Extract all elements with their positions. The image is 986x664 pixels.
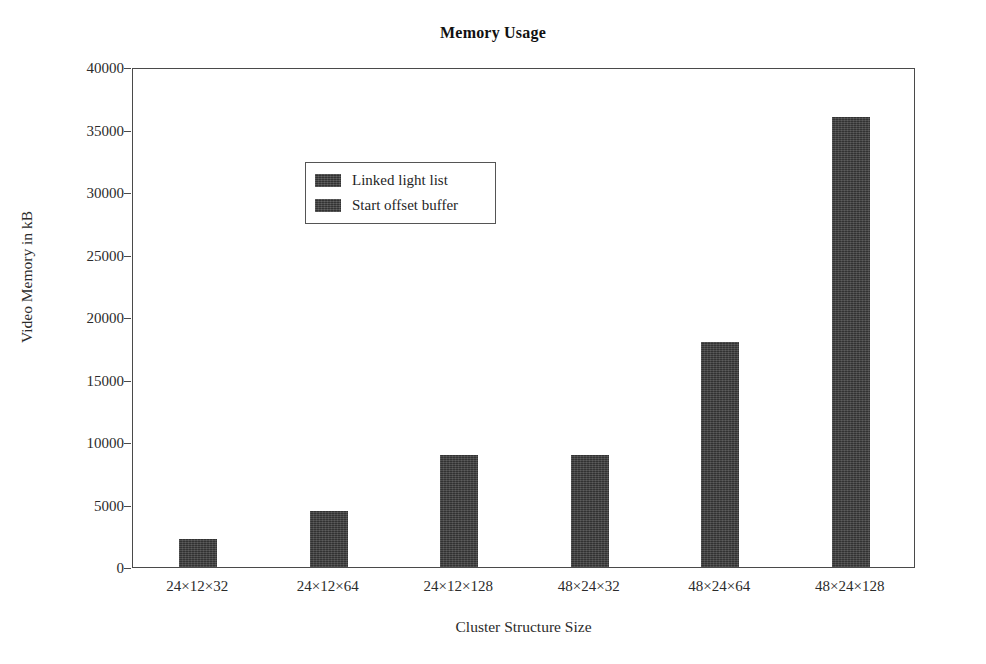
- y-axis-title: Video Memory in kB: [18, 137, 36, 417]
- x-axis-tick-label: 48×24×128: [775, 578, 925, 595]
- chart-legend: Linked light list Start offset buffer: [305, 162, 496, 224]
- legend-item-label: Start offset buffer: [352, 197, 458, 214]
- x-axis-tick-label: 24×12×128: [383, 578, 533, 595]
- legend-item-label: Linked light list: [352, 172, 448, 189]
- y-axis-tick-mark: [124, 68, 131, 69]
- y-axis-tick-mark: [124, 381, 131, 382]
- y-axis-tick-mark: [124, 193, 131, 194]
- y-axis-tick-mark: [124, 256, 131, 257]
- bar: [310, 511, 348, 567]
- y-axis-tick-mark: [124, 443, 131, 444]
- y-axis-tick-mark: [124, 318, 131, 319]
- legend-swatch-icon: [315, 199, 341, 212]
- y-axis-tick-label: 30000: [44, 185, 124, 202]
- y-axis-tick-label: 0: [44, 560, 124, 577]
- x-axis-tick-label: 24×12×32: [122, 578, 272, 595]
- x-axis-tick-label: 48×24×32: [514, 578, 664, 595]
- y-axis-tick-mark: [124, 568, 131, 569]
- bar: [571, 455, 609, 568]
- y-axis-tick-mark: [124, 131, 131, 132]
- y-axis-tick-label: 5000: [44, 497, 124, 514]
- y-axis-tick-label: 10000: [44, 435, 124, 452]
- chart-title: Memory Usage: [0, 24, 986, 42]
- y-axis-tick-labels: 0500010000150002000025000300003500040000: [42, 68, 124, 568]
- plot-area: Linked light list Start offset buffer: [132, 68, 915, 568]
- bar: [701, 342, 739, 567]
- legend-swatch-icon: [315, 174, 341, 187]
- x-axis-tick-label: 24×12×64: [253, 578, 403, 595]
- x-axis-tick-labels: 24×12×3224×12×6424×12×12848×24×3248×24×6…: [132, 578, 915, 602]
- y-axis-tick-label: 20000: [44, 310, 124, 327]
- bar: [179, 539, 217, 567]
- y-axis-tick-label: 15000: [44, 372, 124, 389]
- y-axis-tick-mark: [124, 506, 131, 507]
- y-axis-tick-label: 35000: [44, 122, 124, 139]
- y-axis-tick-label: 40000: [44, 60, 124, 77]
- x-axis-title: Cluster Structure Size: [132, 618, 915, 636]
- legend-item: Linked light list: [315, 168, 486, 193]
- x-axis-tick-label: 48×24×64: [644, 578, 794, 595]
- y-axis-tick-label: 25000: [44, 247, 124, 264]
- chart-figure: Memory Usage 050001000015000200002500030…: [0, 0, 986, 664]
- bar: [440, 455, 478, 568]
- bar: [832, 117, 870, 567]
- legend-item: Start offset buffer: [315, 193, 486, 218]
